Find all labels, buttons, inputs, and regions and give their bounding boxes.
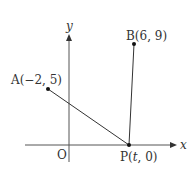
segment-BP: [129, 44, 134, 145]
point-A: [46, 87, 50, 91]
point-P-label-suffix: , 0): [138, 150, 158, 164]
origin-label: O: [57, 148, 67, 162]
point-P-label-prefix: P(: [120, 150, 133, 164]
coordinate-diagram: y x O A(−2, 5) B(6, 9) P(t, 0): [0, 0, 196, 176]
segment-AP: [48, 89, 129, 145]
point-A-label: A(−2, 5): [10, 73, 62, 87]
point-P-label: P(t, 0): [120, 150, 158, 164]
y-axis-arrow-icon: [66, 34, 72, 41]
x-axis-label: x: [180, 138, 187, 152]
x-axis-arrow-icon: [170, 142, 177, 148]
point-P: [127, 143, 131, 147]
y-axis-label: y: [65, 19, 73, 33]
point-B-label: B(6, 9): [126, 29, 167, 43]
